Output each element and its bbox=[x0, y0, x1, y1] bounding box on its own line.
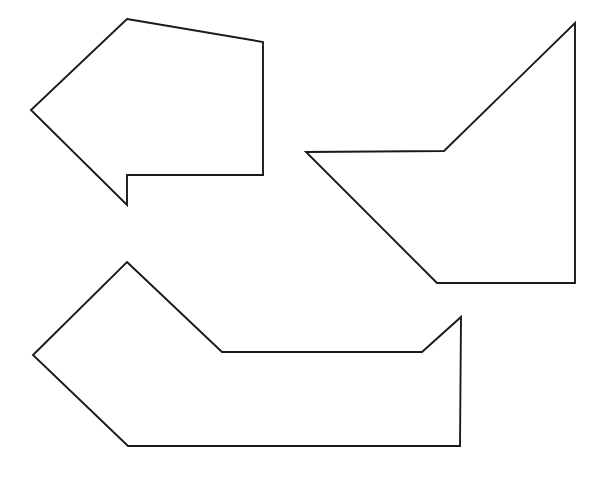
figure-canvas bbox=[0, 0, 603, 477]
shapes-svg bbox=[0, 0, 603, 477]
